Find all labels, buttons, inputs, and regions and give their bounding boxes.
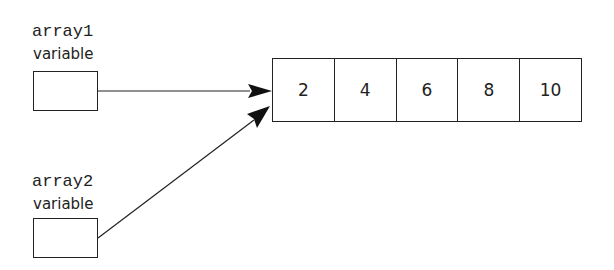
diagram: array1 variable array2 variable 2 4 6 8 … xyxy=(0,0,614,270)
reference-arrows xyxy=(0,0,614,270)
arrowhead-icon xyxy=(248,84,272,98)
arrowhead-icon xyxy=(247,106,270,128)
